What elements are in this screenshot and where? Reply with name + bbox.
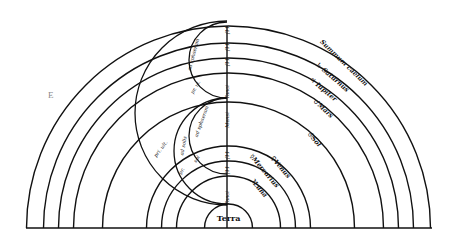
sphere-label-summum-caelum: Summum caelum [318, 38, 369, 88]
corner-letter: E [48, 90, 54, 100]
axis-tick: ſ11 [224, 166, 231, 175]
terra-label: Terra [217, 213, 241, 223]
epicycle-label: ad sphaeram [186, 38, 201, 72]
axis-tick: ſ11 [224, 151, 231, 160]
epicycle-label: pr. [177, 166, 187, 176]
epicycle-label: ad sphaeram [193, 105, 211, 138]
cosmological-diagram: E ſ11ſ11ſ11TanciMensiſ11ſ11Tanci ad spha… [0, 0, 454, 244]
axis-tick: ſ11 [224, 43, 231, 52]
axis-tick: Mensi [224, 112, 230, 129]
axis-tick: ſ11 [224, 26, 231, 35]
axis-tick: Tanci [224, 85, 230, 99]
axis-tick: ſ11 [224, 58, 231, 67]
epicycle-label: pri. ult. [152, 139, 169, 158]
sphere-label-sol: ☉Sol [305, 130, 323, 149]
epicycle-label: ad solis [178, 135, 187, 155]
axis-tick: Tanci [224, 191, 230, 205]
